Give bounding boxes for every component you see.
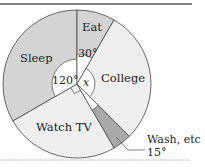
label-eat: Eat (82, 20, 102, 34)
label-sleep-angle: 120° (52, 74, 79, 87)
label-sleep: Sleep (20, 51, 53, 65)
label-eat-angle: 30° (78, 47, 98, 60)
label-wash: Wash, etc (147, 133, 201, 146)
label-wash-angle: 15° (147, 146, 167, 159)
pie-chart-figure: Eat 30° Sleep 120° x College Watch TV Wa… (0, 0, 205, 167)
label-college-angle: x (83, 76, 90, 89)
label-watch-tv: Watch TV (36, 120, 92, 134)
label-college: College (101, 71, 145, 85)
